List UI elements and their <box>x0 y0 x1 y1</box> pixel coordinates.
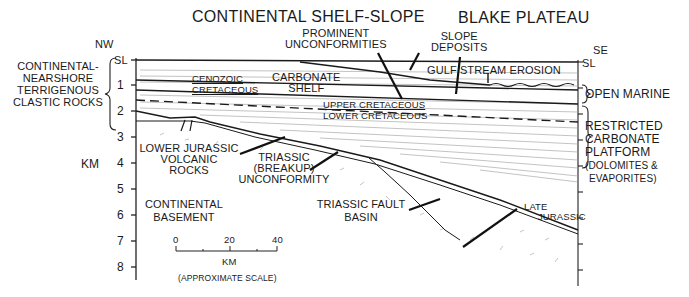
depth-tick-5: 5 <box>117 183 124 195</box>
triassic-unconformity-label: TRIASSIC (BREAKUP) UNCONFORMITY <box>238 152 330 185</box>
label-line: JURASSIC <box>524 212 586 222</box>
scale-tick-20: 20 <box>224 235 235 245</box>
cenozoic-label: CENOZOIC <box>192 74 243 84</box>
label-line: BASEMENT <box>143 211 225 224</box>
depth-tick-7: 7 <box>117 235 124 247</box>
label-line: UNCONFORMITY <box>238 174 330 185</box>
depth-tick-8: 8 <box>117 261 124 273</box>
sl-left-label: SL <box>114 54 128 66</box>
restricted-carbonate-label: RESTRICTED CARBONATE PLATFORM (DOLOMITES… <box>585 120 663 185</box>
scale-tick-40: 40 <box>272 235 283 245</box>
lower-jurassic-volcanic-label: LOWER JURASSIC VOLCANIC ROCKS <box>139 143 239 176</box>
continental-basement-label: CONTINENTAL BASEMENT <box>143 198 225 224</box>
gulf-stream-erosion-label: GULF STREAM EROSION <box>427 64 561 76</box>
depth-tick-1: 1 <box>117 79 124 91</box>
label-line: ROCKS <box>139 165 239 176</box>
slope-deposits-label: SLOPE DEPOSITS <box>431 31 487 53</box>
scale-note: (APPROXIMATE SCALE) <box>178 272 277 284</box>
scale-bar <box>176 246 277 251</box>
label-line: BASIN <box>315 211 407 224</box>
right-depth-axis <box>578 60 583 286</box>
label-line: EVAPORITES) <box>585 172 663 185</box>
open-marine-label: OPEN MARINE <box>585 88 670 100</box>
depth-tick-3: 3 <box>117 131 124 143</box>
label-line: CONTINENTAL- <box>10 60 106 72</box>
label-line: (DOLOMITES & <box>585 159 663 172</box>
prominent-unconformities-label: PROMINENT UNCONFORMITIES <box>285 28 387 50</box>
scale-tick-0: 0 <box>173 235 178 245</box>
depth-tick-2: 2 <box>117 105 124 117</box>
label-line: CLASTIC ROCKS <box>10 96 106 108</box>
lower-cretaceous-label: LOWER CRETACEOUS <box>323 111 427 121</box>
continental-nearshore-label: CONTINENTAL- NEARSHORE TERRIGENOUS CLAST… <box>10 60 106 108</box>
sl-right-label: SL <box>582 57 596 69</box>
label-line: TRIASSIC FAULT <box>315 198 407 211</box>
triassic-fault-basin-label: TRIASSIC FAULT BASIN <box>315 198 407 224</box>
label-line: NEARSHORE <box>10 72 106 84</box>
axis-km-label: KM <box>81 158 99 170</box>
label-line: PLATFORM <box>585 146 663 159</box>
depth-tick-4: 4 <box>117 157 124 169</box>
title-continental-shelf-slope: CONTINENTAL SHELF-SLOPE <box>192 8 425 26</box>
label-line: CONTINENTAL <box>143 198 225 211</box>
label-line: UNCONFORMITIES <box>285 39 387 50</box>
scale-unit-km: KM <box>222 257 236 267</box>
se-label: SE <box>593 44 608 56</box>
depth-tick-6: 6 <box>117 209 124 221</box>
cretaceous-label: CRETACEOUS <box>192 85 258 95</box>
label-line: DEPOSITS <box>431 42 487 53</box>
late-jurassic-label: LATE JURASSIC <box>524 202 586 222</box>
upper-cretaceous-label: UPPER CRETACEOUS <box>323 100 425 110</box>
carbonate-shelf-label: CARBONATE SHELF <box>272 72 341 94</box>
label-line: SHELF <box>272 83 341 94</box>
title-blake-plateau: BLAKE PLATEAU <box>458 9 590 27</box>
nw-label: NW <box>95 38 114 50</box>
left-depth-axis <box>131 58 136 280</box>
label-line: TERRIGENOUS <box>10 84 106 96</box>
